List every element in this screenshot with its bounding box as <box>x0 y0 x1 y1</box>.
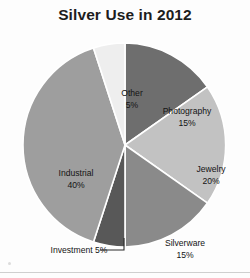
pie-label-other-name: Other <box>121 88 143 98</box>
pie-label-industrial-value: 40% <box>40 180 112 192</box>
pie-label-other-value: 5% <box>106 100 158 112</box>
pie-label-jewelry: Jewelry 20% <box>180 164 242 187</box>
pie-label-industrial-name: Industrial <box>59 168 94 178</box>
pie-label-investment: Investment 5% <box>38 245 120 257</box>
pie-label-photography-name: Photography <box>163 106 212 116</box>
page-rule <box>0 272 250 273</box>
scan-speck <box>8 262 11 265</box>
pie-label-photography: Photography 15% <box>150 106 224 129</box>
pie-label-jewelry-value: 20% <box>180 176 242 188</box>
pie-chart: Photography 15% Jewelry 20% Silverware 1… <box>22 42 228 248</box>
pie-svg <box>22 42 228 248</box>
pie-label-investment-name: Investment <box>51 245 93 255</box>
pie-label-silverware: Silverware 15% <box>148 238 222 261</box>
pie-label-industrial: Industrial 40% <box>40 168 112 191</box>
pie-label-investment-value: 5% <box>95 245 107 255</box>
pie-label-other: Other 5% <box>106 88 158 111</box>
chart-figure: Silver Use in 2012 Photography 15% Jewel… <box>0 0 250 278</box>
pie-label-silverware-value: 15% <box>148 250 222 262</box>
pie-label-jewelry-name: Jewelry <box>196 164 225 174</box>
pie-label-photography-value: 15% <box>150 118 224 130</box>
chart-title: Silver Use in 2012 <box>0 6 250 24</box>
pie-label-silverware-name: Silverware <box>165 238 205 248</box>
